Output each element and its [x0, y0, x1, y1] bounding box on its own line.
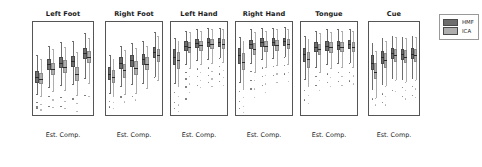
x-tick-mark	[188, 115, 189, 116]
outlier-point	[395, 91, 396, 92]
whisker-cap	[207, 59, 209, 60]
whisker-cap	[372, 43, 374, 44]
x-tick-mark	[241, 115, 242, 116]
x-tick-mark	[134, 115, 135, 116]
x-tick-mark	[318, 115, 319, 116]
whisker-cap	[178, 41, 180, 42]
median-line	[145, 64, 148, 65]
outlier-point	[185, 72, 186, 73]
median-line	[414, 55, 417, 56]
whisker-cap	[154, 77, 156, 78]
whisker-cap	[142, 83, 144, 84]
outlier-point	[308, 103, 309, 104]
outlier-point	[250, 71, 251, 72]
whisker-cap	[308, 86, 310, 87]
outlier-point	[250, 88, 251, 89]
x-tick-mark	[351, 115, 352, 116]
x-tick-mark	[253, 115, 254, 116]
outlier-point	[84, 95, 85, 96]
outlier-point	[64, 108, 65, 109]
whisker-cap	[135, 93, 137, 94]
whisker-cap	[60, 85, 62, 86]
outlier-point	[276, 82, 277, 83]
whisker-cap	[64, 90, 66, 91]
outlier-point	[304, 90, 305, 91]
whisker-cap	[382, 84, 384, 85]
outlier-point	[40, 109, 41, 110]
whisker-cap	[250, 29, 252, 30]
outlier-point	[265, 92, 266, 93]
outlier-point	[109, 106, 110, 107]
outlier-point	[200, 87, 201, 88]
panel-tongue: Tongue20406080100Est. Comp.	[300, 21, 358, 116]
outlier-point	[40, 104, 41, 105]
outlier-point	[273, 75, 274, 76]
outlier-point	[113, 108, 114, 109]
whisker-cap	[142, 41, 144, 42]
outlier-point	[109, 101, 110, 102]
median-line	[71, 61, 75, 62]
median-line	[188, 47, 191, 48]
median-line	[404, 57, 407, 58]
whisker-cap	[272, 28, 274, 29]
y-tick-mark	[32, 34, 33, 35]
panel-title: Right Foot	[105, 10, 163, 18]
whisker-cap	[319, 33, 321, 34]
outlier-point	[341, 85, 342, 86]
outlier-point	[208, 67, 209, 68]
outlier-point	[327, 82, 328, 83]
whisker-cap	[304, 36, 306, 37]
outlier-point	[113, 102, 114, 103]
x-tick-mark	[275, 115, 276, 116]
outlier-point	[132, 96, 133, 97]
outlier-point	[415, 88, 416, 89]
outlier-point	[189, 76, 190, 77]
whisker-cap	[196, 29, 198, 30]
outlier-point	[174, 108, 175, 109]
median-line	[287, 44, 290, 45]
panel-title: Left Foot	[32, 10, 94, 18]
outlier-point	[392, 90, 393, 91]
whisker-cap	[174, 38, 176, 39]
median-line	[75, 74, 79, 75]
outlier-point	[48, 106, 49, 107]
panel-title: Left Hand	[170, 10, 228, 18]
median-line	[340, 47, 343, 48]
whisker-cap	[124, 50, 126, 51]
whisker-cap	[405, 38, 407, 39]
legend-item-hmf[interactable]: HMF	[443, 19, 474, 27]
whisker-cap	[382, 38, 384, 39]
whisker-cap	[239, 37, 241, 38]
outlier-point	[243, 97, 244, 98]
legend-label: ICA	[462, 28, 471, 34]
whisker-cap	[185, 31, 187, 32]
whisker-cap	[319, 72, 321, 73]
whisker-cap	[265, 31, 267, 32]
whisker-cap	[60, 42, 62, 43]
x-tick-mark	[63, 115, 64, 116]
outlier-point	[288, 72, 289, 73]
outlier-point	[243, 112, 244, 113]
whisker-cap	[315, 67, 317, 68]
whisker-cap	[287, 29, 289, 30]
whisker-cap	[304, 79, 306, 80]
outlier-point	[308, 95, 309, 96]
legend-item-ica[interactable]: ICA	[443, 27, 474, 35]
legend-label: HMF	[462, 19, 474, 25]
whisker-cap	[265, 67, 267, 68]
x-tick-mark	[39, 115, 40, 116]
outlier-point	[262, 76, 263, 77]
whisker-cap	[48, 87, 50, 88]
outlier-point	[353, 75, 354, 76]
whisker-cap	[284, 57, 286, 58]
boxplot-figure: Correlation Left Foot204060801001.00.80.…	[0, 0, 482, 167]
x-tick-mark	[340, 115, 341, 116]
x-tick-mark	[87, 115, 88, 116]
x-axis-label: Est. Comp.	[300, 131, 358, 139]
whisker-cap	[402, 79, 404, 80]
outlier-point	[273, 66, 274, 67]
outlier-point	[60, 106, 61, 107]
outlier-point	[341, 76, 342, 77]
median-line	[275, 45, 278, 46]
panel-right-foot: Right Foot20406080100Est. Comp.	[105, 21, 163, 116]
